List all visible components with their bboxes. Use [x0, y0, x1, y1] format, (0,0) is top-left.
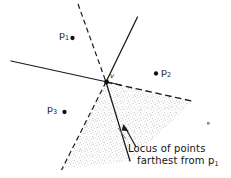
caption-line-1: Locus of points	[128, 143, 219, 155]
stray-mark	[207, 122, 210, 125]
vertex-label-v: v	[110, 72, 114, 80]
point-label-p2: p2	[161, 67, 171, 78]
vertex-dot-v	[104, 80, 109, 85]
site-dot-p1	[70, 36, 74, 40]
site-dot-p3	[62, 110, 66, 114]
line-bisector-dashed-north	[78, 4, 106, 82]
site-dot-p2	[154, 71, 158, 75]
point-label-p3: p3	[47, 104, 57, 115]
locus-caption: Locus of points farthest from p1	[128, 143, 219, 166]
point-label-p1: p1	[59, 30, 69, 41]
caption-line-2: farthest from p1	[128, 155, 219, 167]
figure-canvas: p1 p2 p3 v Locus of points farthest from…	[0, 0, 231, 178]
